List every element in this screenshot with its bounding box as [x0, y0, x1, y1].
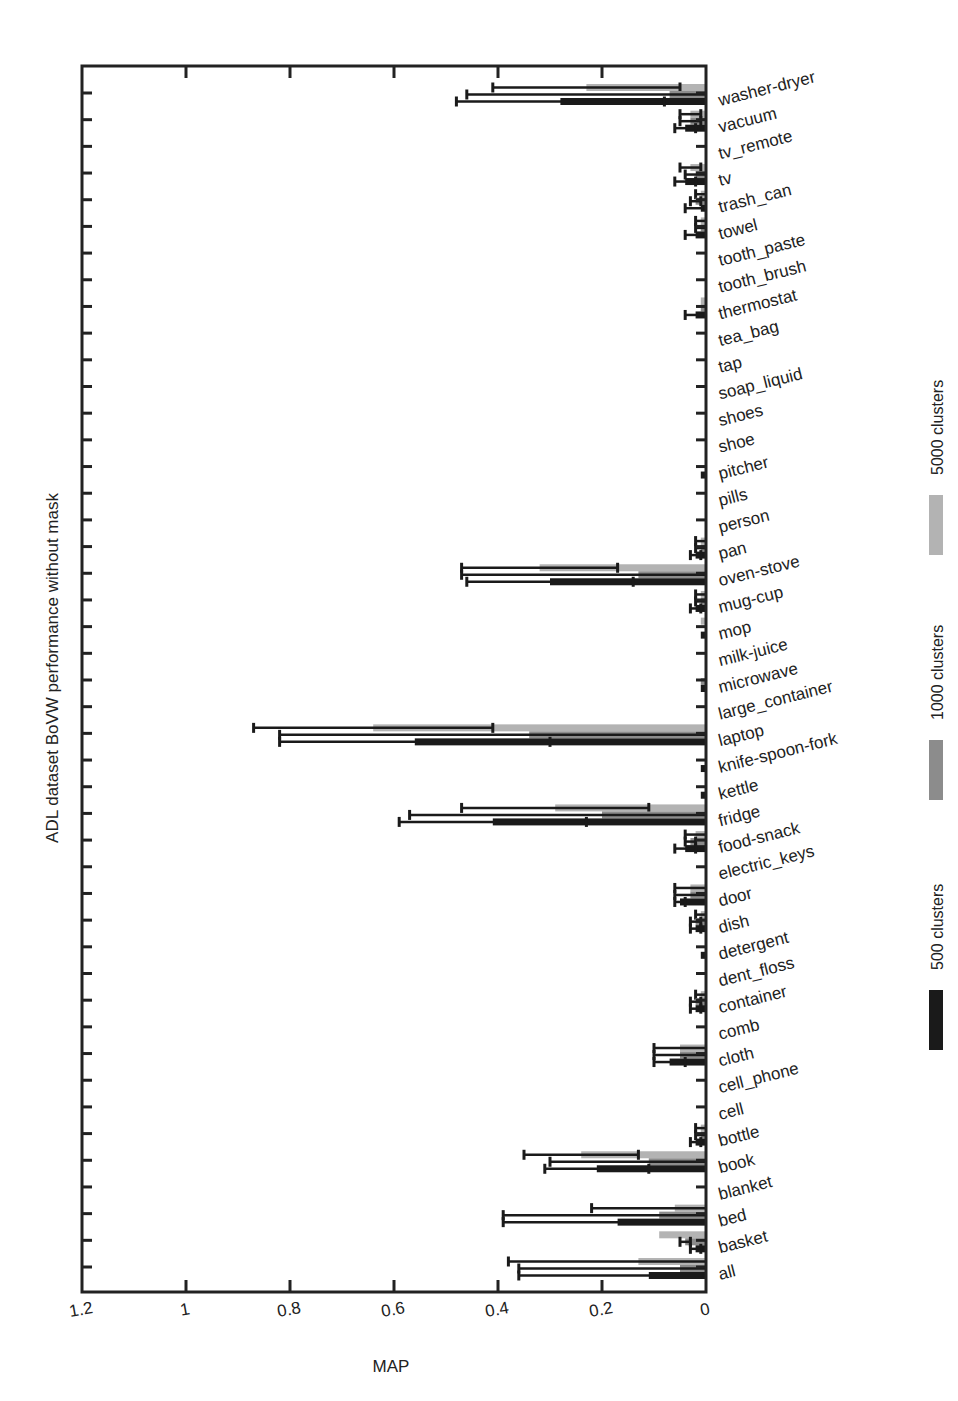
category-label: dish [716, 911, 751, 937]
x-tick-label: 0.2 [588, 1298, 615, 1321]
x-ticks: 1.210.80.60.40.20 [68, 66, 712, 1321]
category-label: pitcher [716, 453, 770, 484]
category-label: shoes [716, 401, 765, 430]
category-label: shoe [716, 429, 756, 456]
category-label: basket [716, 1227, 769, 1258]
x-tick-label: 0.4 [484, 1298, 511, 1321]
legend-label: 5000 clusters [929, 380, 946, 475]
bars [254, 83, 706, 1281]
legend-label: 1000 clusters [929, 625, 946, 720]
category-label: tap [716, 353, 744, 377]
chart: 1.210.80.60.40.20 washer-dryervacuumtv_r… [0, 0, 958, 1401]
category-label: washer-dryer [715, 67, 817, 110]
category-labels: washer-dryervacuumtv_remotetvtrash_canto… [715, 67, 839, 1284]
category-label: laptop [716, 721, 766, 751]
category-label: towel [716, 215, 759, 243]
category-label: pan [716, 538, 748, 563]
category-label: person [716, 506, 771, 537]
category-label: kettle [716, 775, 760, 803]
category-label: bottle [716, 1122, 761, 1150]
category-label: cell [716, 1099, 745, 1124]
category-label: pills [716, 485, 749, 511]
legend-swatch [929, 990, 943, 1050]
x-tick-label: 1.2 [68, 1298, 95, 1321]
x-tick-label: 0.8 [276, 1298, 303, 1321]
category-label: tv [716, 168, 734, 190]
category-label: all [716, 1261, 737, 1284]
category-label: fridge [716, 802, 762, 831]
x-axis-title: MAP [373, 1357, 410, 1376]
category-label: bed [716, 1205, 748, 1230]
legend-swatch [929, 740, 943, 800]
y-ticks [82, 93, 706, 1267]
x-tick-label: 1 [179, 1299, 192, 1319]
legend-label: 500 clusters [929, 884, 946, 970]
x-tick-label: 0.6 [380, 1298, 407, 1321]
category-label: book [716, 1150, 757, 1177]
bar [659, 1231, 706, 1238]
plot-frame [82, 66, 706, 1292]
category-label: door [716, 884, 754, 911]
bar-chart: 1.210.80.60.40.20 washer-dryervacuumtv_r… [0, 0, 958, 1401]
legend-swatch [929, 495, 943, 555]
category-label: cloth [716, 1043, 755, 1070]
legend: 500 clusters1000 clusters5000 clusters [929, 380, 946, 1050]
x-tick-label: 0 [699, 1299, 712, 1319]
category-label: comb [716, 1015, 761, 1043]
category-label: blanket [716, 1172, 774, 1204]
y-axis-title: ADL dataset BoVW performance without mas… [43, 493, 62, 843]
category-label: mop [716, 617, 753, 643]
